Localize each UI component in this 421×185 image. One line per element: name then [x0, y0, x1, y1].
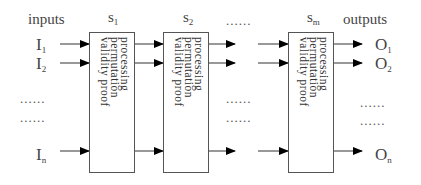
stage-box-text: processing permutation validity proof	[299, 37, 329, 107]
stage-box-text: processing permutation validity proof	[100, 37, 130, 107]
stage-box-s2: processing permutation validity proof	[163, 32, 209, 173]
stage-box-sm: processing permutation validity proof	[288, 32, 334, 173]
stage-box-s1: processing permutation validity proof	[89, 32, 135, 173]
stage-box-text: processing permutation validity proof	[174, 37, 204, 107]
arrows-layer	[0, 0, 421, 185]
